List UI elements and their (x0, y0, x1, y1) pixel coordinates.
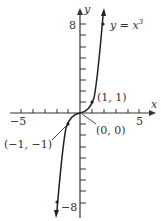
y-max-label: 8 (69, 19, 76, 32)
x-max-label: 5 (136, 115, 143, 128)
origin-leader (82, 114, 96, 124)
point-neg1-neg1 (66, 122, 69, 125)
cubic-graph: y x 8 −8 −5 5 y = x3 (1, 1) (0, 0) (−1, … (0, 0, 161, 221)
y-min-label: −8 (61, 201, 77, 214)
point-label-1-1: (1, 1) (97, 91, 127, 104)
x-axis-label: x (151, 98, 158, 111)
curve-label: y = x3 (109, 18, 144, 32)
point-1-1 (90, 100, 93, 103)
x-min-label: −5 (10, 115, 26, 128)
y-axis-label: y (83, 3, 91, 16)
point-label-origin: (0, 0) (96, 124, 126, 137)
point-label-neg1-neg1: (−1, −1) (4, 138, 52, 151)
